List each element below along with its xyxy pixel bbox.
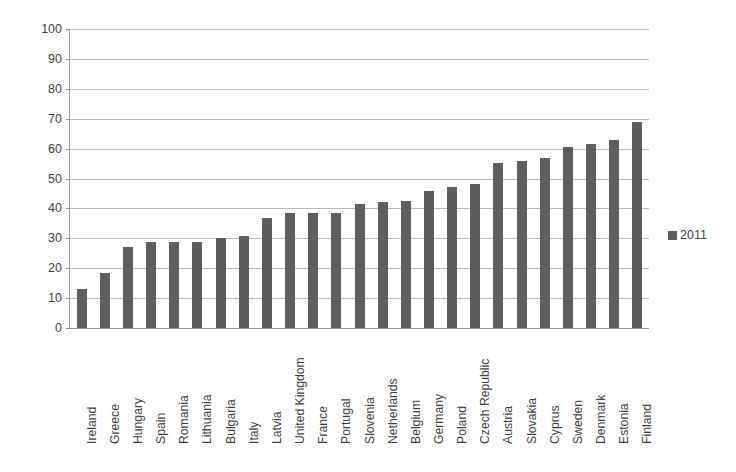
bar [517, 161, 527, 328]
x-tick-label: Romania [178, 395, 190, 444]
y-tick-label: 70 [28, 112, 62, 126]
x-tick-label: Estonia [618, 403, 630, 444]
bar [192, 242, 202, 328]
bar [100, 273, 110, 328]
bar [308, 213, 318, 328]
x-tick-label: Lithuania [201, 395, 213, 444]
x-tick-label: Austria [502, 406, 514, 444]
y-tick-label: 50 [28, 172, 62, 186]
x-tick-label: Portugal [340, 399, 352, 444]
bar [331, 213, 341, 328]
x-tick-label: Slovakia [526, 398, 538, 444]
x-tick-label: Belgium [410, 400, 422, 444]
bar [169, 242, 179, 328]
y-tick-label: 90 [28, 52, 62, 66]
bar [401, 201, 411, 328]
plot-area [69, 29, 649, 328]
x-tick-label: Bulgaria [225, 399, 237, 444]
x-tick-label: Denmark [595, 395, 607, 444]
chart-legend: 2011 [668, 228, 707, 242]
y-tick-label: 80 [28, 82, 62, 96]
bars-layer [70, 29, 649, 328]
x-tick-label: France [317, 406, 329, 444]
gridline [70, 328, 649, 329]
bar [77, 289, 87, 328]
bar [563, 147, 573, 328]
y-tick-label: 10 [28, 291, 62, 305]
bar [123, 247, 133, 328]
x-tick-label: Slovenia [364, 397, 376, 444]
y-tickmark [66, 328, 70, 329]
x-tick-label: Greece [109, 404, 121, 444]
bar [146, 242, 156, 328]
bar [632, 122, 642, 328]
bar [609, 140, 619, 328]
bar [239, 236, 249, 328]
x-tick-label: Germany [433, 394, 445, 444]
x-tick-label: Poland [456, 406, 468, 444]
x-axis-tick-labels: IrelandGreeceHungarySpainRomaniaLithuani… [69, 332, 648, 452]
y-tick-label: 60 [28, 142, 62, 156]
bar [216, 238, 226, 328]
bar [470, 184, 480, 328]
x-tick-label: Ireland [86, 407, 98, 444]
x-tick-label: Italy [248, 422, 260, 444]
y-axis-tick-labels: 1009080706050403020100 [28, 22, 62, 334]
x-tick-label: Finland [641, 404, 653, 444]
bar [540, 158, 550, 328]
x-tick-label: Spain [155, 413, 167, 444]
bar [378, 202, 388, 328]
bar [355, 204, 365, 328]
x-tick-label: Czech Republic [479, 359, 491, 444]
x-tick-label: United Kingdom [294, 357, 306, 444]
bar [447, 187, 457, 328]
x-tick-label: Netherlands [387, 378, 399, 444]
bar [493, 163, 503, 328]
legend-label-2011: 2011 [680, 228, 707, 242]
x-tick-label: Sweden [572, 400, 584, 444]
y-tick-label: 100 [28, 22, 62, 36]
y-tick-label: 40 [28, 201, 62, 215]
bar [285, 213, 295, 328]
bar [424, 191, 434, 328]
y-tick-label: 20 [28, 261, 62, 275]
x-tick-label: Hungary [132, 398, 144, 444]
y-tick-label: 0 [28, 321, 62, 335]
bar [586, 144, 596, 328]
legend-swatch-2011 [668, 231, 677, 240]
x-tick-label: Cyprus [549, 405, 561, 444]
bar [262, 218, 272, 328]
x-tick-label: Latvia [271, 411, 283, 444]
bar-chart-figure: percent answering "Yes" 1009080706050403… [0, 0, 736, 472]
y-tick-label: 30 [28, 231, 62, 245]
